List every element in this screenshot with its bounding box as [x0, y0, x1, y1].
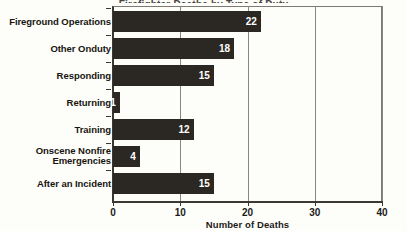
bar: 18 — [113, 38, 234, 59]
bar: 4 — [113, 146, 140, 167]
x-tick-label-20: 20 — [242, 207, 253, 218]
category-label: Training — [0, 125, 111, 136]
y-tick-mark — [106, 89, 111, 90]
bar: 1 — [113, 92, 120, 113]
gridline-10 — [180, 6, 181, 201]
category-label: Onscene NonfireEmergencies — [0, 146, 111, 167]
x-tick-mark-30 — [315, 201, 316, 206]
bar: 15 — [113, 65, 214, 86]
y-tick-mark — [106, 116, 111, 117]
y-tick-mark — [106, 143, 111, 144]
bar-value-label: 12 — [179, 119, 190, 140]
category-label: Other Onduty — [0, 44, 111, 55]
bar-value-label: 18 — [219, 38, 230, 59]
x-tick-mark-20 — [248, 201, 249, 206]
y-tick-mark — [106, 35, 111, 36]
x-tick-label-40: 40 — [376, 207, 387, 218]
y-tick-mark — [106, 8, 111, 9]
x-tick-mark-10 — [180, 201, 181, 206]
bar-value-label: 15 — [199, 65, 210, 86]
bar-chart: Firefighter Deaths by Type of Duty 01020… — [0, 0, 407, 231]
bar-value-label: 15 — [199, 173, 210, 194]
bar-value-label: 22 — [246, 11, 257, 32]
bar: 12 — [113, 119, 194, 140]
bar: 22 — [113, 11, 261, 32]
x-tick-label-30: 30 — [309, 207, 320, 218]
bar-value-label: 4 — [130, 146, 136, 167]
gridline-40 — [382, 6, 383, 201]
x-axis-title: Number of Deaths — [112, 219, 383, 230]
chart-title-remnant: Firefighter Deaths by Type of Duty — [0, 0, 407, 3]
category-label: Fireground Operations — [0, 17, 111, 28]
category-label: Returning — [0, 98, 111, 109]
category-label: Responding — [0, 71, 111, 82]
x-tick-label-0: 0 — [110, 207, 116, 218]
category-label: After an Incident — [0, 179, 111, 190]
bar: 15 — [113, 173, 214, 194]
x-tick-label-10: 10 — [175, 207, 186, 218]
x-tick-mark-0 — [113, 201, 114, 206]
y-tick-mark — [106, 62, 111, 63]
x-tick-mark-40 — [382, 201, 383, 206]
gridline-20 — [248, 6, 249, 201]
gridline-30 — [315, 6, 316, 201]
y-tick-mark — [106, 170, 111, 171]
